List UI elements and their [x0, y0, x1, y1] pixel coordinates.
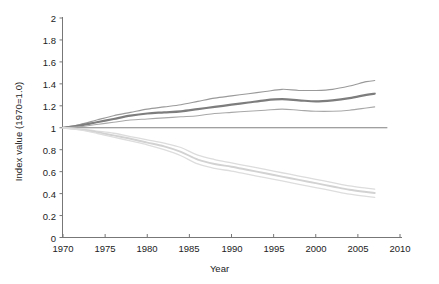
series-line-lower-bundle-lower-bound: [63, 128, 375, 198]
chart-figure: Index value (1970=1.0) 2 1.8 1.6 1.4 1.2…: [0, 0, 439, 284]
series-layer: [63, 81, 375, 198]
x-axis-ticks: [63, 234, 400, 238]
series-line-upper-bundle-lower-bound: [63, 107, 375, 128]
plot-canvas: [0, 0, 439, 284]
series-line-lower-bundle-upper-bound: [63, 128, 375, 189]
